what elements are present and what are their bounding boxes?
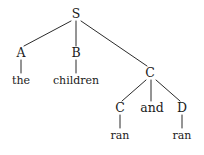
tree-node-d: D xyxy=(177,102,187,115)
tree-leaf-children: children xyxy=(53,75,99,86)
tree-edge-c-to-c xyxy=(122,80,146,101)
syntax-tree-figure: S A B C C and D the children ran ran xyxy=(0,0,204,155)
tree-edge-c-to-d xyxy=(156,80,180,101)
tree-edge-s-to-c xyxy=(81,21,147,66)
tree-leaf-the: the xyxy=(12,75,30,86)
tree-leaf-ran-right: ran xyxy=(173,130,192,141)
tree-node-s: S xyxy=(72,8,81,21)
tree-node-and: and xyxy=(140,102,164,115)
tree-edge-s-to-a xyxy=(24,21,71,46)
tree-node-c-left: C xyxy=(115,102,125,115)
tree-node-c-phrase: C xyxy=(145,67,155,80)
tree-node-a: A xyxy=(16,47,25,60)
tree-node-b: B xyxy=(71,47,80,60)
tree-leaf-ran-left: ran xyxy=(111,130,130,141)
